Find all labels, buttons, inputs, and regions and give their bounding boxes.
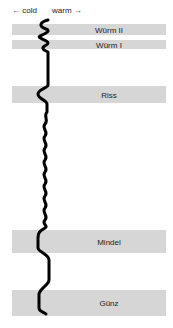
temperature-curve xyxy=(0,0,173,328)
